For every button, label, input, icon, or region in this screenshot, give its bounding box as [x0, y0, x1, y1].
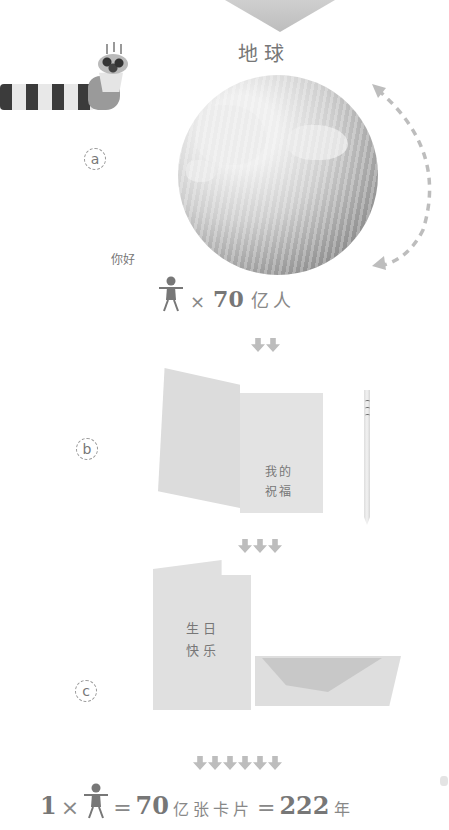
- striped-arm-illustration: [0, 84, 95, 110]
- down-arrow-icon: [208, 756, 222, 770]
- card-message-birthday: 生日 快乐: [186, 618, 220, 662]
- down-arrow-icon: [253, 539, 267, 553]
- times-sign: ×: [61, 795, 79, 820]
- down-arrow-icon: [193, 756, 207, 770]
- population-unit: 亿人: [251, 286, 295, 312]
- continent-shape: [196, 105, 266, 165]
- card-line: 生日: [186, 618, 220, 640]
- step-label-a: a: [84, 148, 106, 170]
- step-label-b: b: [76, 438, 98, 460]
- greeting-text: 你好: [111, 250, 135, 267]
- down-arrow-icon: [268, 756, 282, 770]
- multiplier-number: 1: [40, 791, 57, 820]
- decorative-smudge: [440, 776, 448, 786]
- candle-icon: [113, 42, 115, 52]
- years-unit: 年: [334, 796, 354, 820]
- population-number: 70: [213, 286, 244, 312]
- top-wedge-shape: [225, 0, 335, 32]
- orbit-arrow-icon: [368, 80, 442, 270]
- pencil-stripe: [365, 407, 370, 410]
- pencil-icon: [364, 390, 370, 525]
- pencil-stripe: [365, 414, 370, 417]
- continent-shape: [186, 160, 216, 182]
- result-formula: 1 × = 70 亿张卡片 = 222 年: [40, 782, 354, 820]
- earth-title: 地球: [238, 38, 290, 67]
- down-arrow-icon: [238, 539, 252, 553]
- down-arrow-icon: [238, 756, 252, 770]
- population-count: × 70 亿人: [158, 276, 295, 312]
- down-arrow-icon: [223, 756, 237, 770]
- card-line: 我的: [265, 462, 293, 482]
- candle-icon: [120, 44, 122, 54]
- person-icon: [158, 276, 184, 312]
- down-arrows-6: [193, 756, 282, 770]
- candle-icon: [106, 44, 108, 54]
- card-message-wish: 我的 祝福: [265, 462, 293, 502]
- cards-number: 70: [136, 791, 169, 820]
- down-arrow-icon: [266, 338, 280, 352]
- down-arrows-2: [251, 338, 280, 352]
- card-line: 快乐: [186, 640, 220, 662]
- down-arrow-icon: [268, 539, 282, 553]
- equals-sign: =: [113, 795, 131, 820]
- down-arrows-3: [238, 539, 282, 553]
- person-icon: [83, 782, 109, 820]
- pencil-stripe: [365, 400, 370, 403]
- earth-globe-icon: [178, 75, 378, 275]
- card-line: 祝福: [265, 482, 293, 502]
- cupcake-topping-icon: [98, 54, 128, 74]
- equals-sign: =: [257, 795, 275, 820]
- continent-shape: [288, 125, 348, 160]
- years-number: 222: [279, 791, 329, 820]
- greeting-card-left-panel: [158, 368, 240, 508]
- cards-unit: 亿张卡片: [173, 796, 253, 820]
- down-arrow-icon: [253, 756, 267, 770]
- step-label-c: c: [75, 680, 97, 702]
- down-arrow-icon: [251, 338, 265, 352]
- times-sign: ×: [190, 291, 205, 312]
